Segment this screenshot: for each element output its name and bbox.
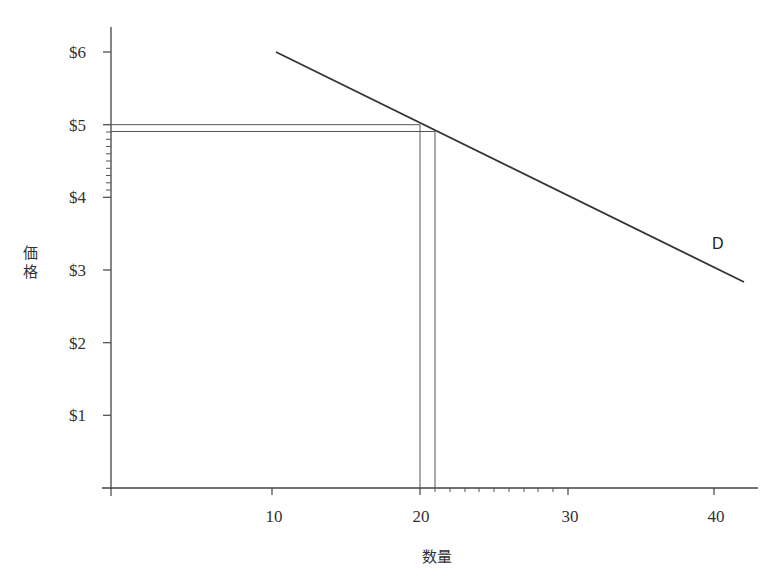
x-major-ticks — [111, 488, 714, 496]
x-axis-title: 数量 — [422, 548, 452, 566]
svg-text:30: 30 — [562, 507, 579, 526]
y-axis-title-2: 格 — [23, 263, 38, 281]
svg-text:$4: $4 — [69, 188, 87, 207]
svg-text:$6: $6 — [69, 43, 86, 62]
y-major-ticks — [103, 52, 111, 415]
axes — [102, 27, 758, 489]
svg-text:40: 40 — [708, 507, 725, 526]
guide-lines — [111, 125, 435, 488]
svg-text:$3: $3 — [69, 261, 86, 280]
demand-curve-d — [276, 52, 744, 282]
y-tick-labels: $6 $5 $4 $3 $2 $1 — [69, 43, 87, 425]
svg-text:$2: $2 — [69, 334, 86, 353]
y-axis-title-1: 価 — [23, 244, 38, 262]
curve-label-d: D — [712, 235, 724, 252]
svg-text:20: 20 — [413, 507, 430, 526]
x-tick-labels: 10 20 30 40 — [266, 507, 725, 526]
demand-chart: $6 $5 $4 $3 $2 $1 10 20 30 40 価 格 数量 D — [0, 0, 776, 588]
svg-text:$1: $1 — [69, 406, 86, 425]
svg-text:$5: $5 — [69, 116, 86, 135]
y-minor-ticks — [106, 132, 111, 190]
svg-text:10: 10 — [266, 507, 283, 526]
